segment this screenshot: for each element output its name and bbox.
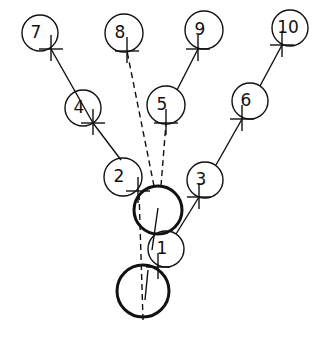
- node-4: 4: [65, 90, 105, 135]
- node-7: 7: [22, 15, 63, 61]
- node-label: 3: [196, 169, 207, 189]
- nodes-layer: 78910456231: [22, 10, 308, 279]
- dashed-edge-upper-bold-5: [161, 123, 166, 186]
- node-label: 8: [115, 22, 126, 42]
- node-label: 2: [114, 166, 125, 186]
- node-8: 8: [105, 14, 143, 63]
- cross-marker-icon: [39, 35, 63, 61]
- tree-diagram: 78910456231: [0, 0, 323, 340]
- node-2: 2: [104, 158, 150, 203]
- node-label: 7: [31, 22, 42, 42]
- edge-4-7: [51, 49, 93, 123]
- node-label: 4: [74, 97, 85, 117]
- node-1: 1: [146, 231, 184, 279]
- node-label: 10: [277, 17, 299, 37]
- edge-2-4: [93, 123, 121, 160]
- edge-bold-lower-inner: [145, 270, 148, 300]
- edge-5-9: [177, 49, 198, 90]
- cross-marker-icon: [186, 35, 210, 61]
- bold-circles-layer: [117, 186, 182, 317]
- dashed-edge-upper-bold-8: [127, 51, 154, 186]
- node-10: 10: [270, 10, 308, 57]
- node-label: 9: [195, 19, 206, 39]
- node-5: 5: [147, 86, 185, 135]
- edge-6-10: [260, 45, 282, 86]
- diagram-svg: 78910456231: [0, 0, 323, 340]
- dashed-edge-lower-bold-2: [139, 192, 143, 320]
- edge-3-6: [216, 119, 242, 165]
- node-3: 3: [187, 162, 223, 209]
- cross-marker-icon: [81, 109, 105, 135]
- node-9: 9: [185, 11, 223, 61]
- cross-marker-icon: [187, 183, 211, 209]
- node-6: 6: [230, 83, 268, 131]
